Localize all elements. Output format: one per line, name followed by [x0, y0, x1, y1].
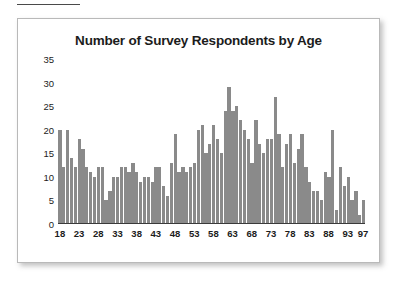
y-tick-label: 15 [43, 148, 54, 159]
bar [350, 200, 353, 224]
y-tick-label: 35 [43, 54, 54, 65]
bar [66, 130, 69, 224]
bar [108, 191, 111, 224]
bar [327, 177, 330, 224]
bar [185, 172, 188, 224]
x-tick-label: 83 [304, 228, 315, 239]
bar [281, 167, 284, 224]
bar [208, 144, 211, 224]
bar [300, 134, 303, 224]
bar [304, 167, 307, 224]
x-tick-label: 97 [358, 228, 369, 239]
bar [166, 196, 169, 224]
bar [120, 167, 123, 224]
bar [250, 163, 253, 224]
x-tick-label: 78 [285, 228, 296, 239]
bar [189, 167, 192, 224]
bar [81, 149, 84, 224]
bar [316, 191, 319, 224]
bar [143, 177, 146, 224]
chart-title: Number of Survey Respondents by Age [18, 33, 379, 48]
bar [343, 186, 346, 224]
bar [147, 177, 150, 224]
bar [339, 167, 342, 224]
bar [254, 120, 257, 224]
y-tick-label: 20 [43, 124, 54, 135]
y-tick-label: 10 [43, 171, 54, 182]
bar [227, 87, 230, 224]
bar [174, 134, 177, 224]
bar [362, 200, 365, 224]
bar [177, 172, 180, 224]
bar [116, 177, 119, 224]
bar [139, 182, 142, 224]
bar [216, 139, 219, 224]
x-tick-label: 48 [170, 228, 181, 239]
top-divider-rule [17, 4, 80, 5]
bar [347, 177, 350, 224]
bar [354, 191, 357, 224]
x-tick-label: 18 [55, 228, 66, 239]
y-axis: 05101520253035 [26, 59, 54, 224]
bar [320, 200, 323, 224]
bar [262, 153, 265, 224]
bar [151, 182, 154, 224]
bar [154, 167, 157, 224]
bar [85, 167, 88, 224]
bar [243, 130, 246, 224]
bar [285, 144, 288, 224]
bar [266, 139, 269, 224]
bar [181, 167, 184, 224]
bar [277, 134, 280, 224]
bar [89, 172, 92, 224]
bar [335, 210, 338, 224]
y-tick-label: 5 [49, 195, 54, 206]
y-tick-label: 25 [43, 101, 54, 112]
bar [131, 163, 134, 224]
bar [58, 130, 61, 224]
bar [101, 167, 104, 224]
x-tick-label: 68 [246, 228, 257, 239]
bar [70, 158, 73, 224]
bar [297, 149, 300, 224]
chart-card: Number of Survey Respondents by Age 0510… [17, 18, 380, 263]
bar [78, 139, 81, 224]
bar [170, 163, 173, 224]
bar [193, 163, 196, 224]
y-tick-label: 30 [43, 77, 54, 88]
bar [231, 111, 234, 224]
bar-series [58, 59, 365, 224]
x-axis-line [58, 223, 365, 224]
bar [104, 200, 107, 224]
bar [62, 167, 65, 224]
bar [158, 167, 161, 224]
bar [308, 182, 311, 224]
bar [289, 134, 292, 224]
x-tick-label: 23 [74, 228, 85, 239]
bar [293, 163, 296, 224]
bar [162, 186, 165, 224]
bar [197, 130, 200, 224]
x-tick-label: 43 [151, 228, 162, 239]
bar [124, 167, 127, 224]
bar [270, 139, 273, 224]
plot-area [58, 59, 365, 224]
bar [135, 172, 138, 224]
x-tick-label: 38 [131, 228, 142, 239]
bar [97, 167, 100, 224]
bar [93, 177, 96, 224]
bar [204, 153, 207, 224]
bar [212, 125, 215, 224]
bar [312, 191, 315, 224]
bar [235, 106, 238, 224]
x-tick-label: 73 [266, 228, 277, 239]
bar [74, 167, 77, 224]
bar [127, 172, 130, 224]
bar [112, 177, 115, 224]
x-tick-label: 33 [112, 228, 123, 239]
bar [239, 120, 242, 224]
bar [224, 111, 227, 224]
x-tick-label: 93 [342, 228, 353, 239]
bar [324, 172, 327, 224]
bar [220, 153, 223, 224]
